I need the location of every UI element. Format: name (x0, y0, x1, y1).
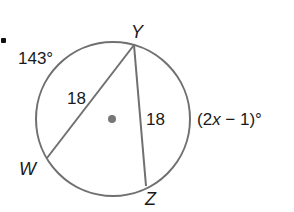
point-w-label: W (19, 160, 36, 178)
point-z-label: Z (145, 190, 156, 208)
point-y-label: Y (131, 23, 143, 41)
center-point (108, 115, 116, 123)
chord-yz (134, 45, 146, 186)
chord-yz-length: 18 (146, 111, 165, 128)
arc-yz-measure: (2x − 1)° (197, 111, 262, 128)
diagram-canvas: 143° 18 18 (2x − 1)° Y W Z (0, 0, 294, 212)
circle-figure (0, 0, 294, 212)
arc-wy-measure: 143° (18, 50, 53, 67)
chord-yw-length: 18 (67, 90, 86, 107)
